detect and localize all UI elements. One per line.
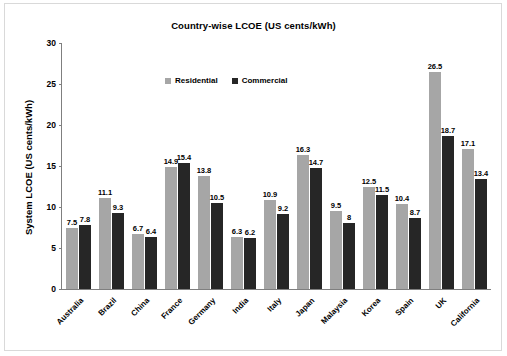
- bar[interactable]: [376, 195, 388, 289]
- y-axis-tick-label: 10: [47, 202, 56, 212]
- chart-figure: Country-wise LCOE (US cents/kWh) System …: [0, 0, 507, 356]
- bar-column: 8.7: [409, 43, 421, 289]
- x-axis-label-slot: Korea: [359, 291, 392, 351]
- bar-value-label: 15.4: [177, 153, 192, 162]
- bar[interactable]: [165, 167, 177, 289]
- x-axis-tick-label: Italy: [265, 296, 283, 314]
- x-axis-label-slot: California: [458, 291, 491, 351]
- legend-label: Commercial: [242, 76, 288, 85]
- x-axis-tick-label: Spain: [393, 296, 415, 318]
- x-axis-tick-label: France: [159, 296, 184, 321]
- y-axis-tick-label: 15: [47, 161, 56, 171]
- bar[interactable]: [198, 176, 210, 289]
- bar[interactable]: [132, 234, 144, 289]
- x-axis-tick-label: Japan: [293, 296, 316, 319]
- bar-value-label: 17.1: [461, 139, 476, 148]
- bar[interactable]: [429, 72, 441, 289]
- bar-value-label: 8.7: [410, 208, 420, 217]
- x-axis-labels: AustraliaBrazilChinaFranceGermanyIndiaIt…: [62, 291, 491, 351]
- bar-group: 10.48.7: [392, 43, 425, 289]
- bar-column: 13.4: [475, 43, 487, 289]
- bar[interactable]: [145, 237, 157, 289]
- legend-entry[interactable]: Residential: [165, 76, 218, 85]
- bar[interactable]: [396, 204, 408, 289]
- bar-value-label: 6.3: [232, 227, 242, 236]
- bar-column: 16.3: [297, 43, 309, 289]
- bar-value-label: 13.8: [197, 166, 212, 175]
- y-axis-tick-label: 20: [47, 120, 56, 130]
- bar-value-label: 11.1: [98, 188, 112, 197]
- legend-entry[interactable]: Commercial: [232, 76, 288, 85]
- bar-value-label: 9.3: [113, 203, 123, 212]
- bar-value-label: 16.3: [296, 145, 311, 154]
- bar-column: 6.7: [132, 43, 144, 289]
- bar[interactable]: [330, 211, 342, 289]
- bar[interactable]: [178, 163, 190, 289]
- bar[interactable]: [66, 228, 78, 290]
- bar-column: 17.1: [462, 43, 474, 289]
- x-axis-tick-label: India: [230, 296, 250, 316]
- bar-group: 7.57.8: [62, 43, 95, 289]
- x-axis-tick-label: China: [129, 296, 151, 318]
- bar-value-label: 6.4: [146, 227, 156, 236]
- y-axis-title: System LCOE (US cents/kWh): [23, 78, 34, 258]
- bar-column: 6.4: [145, 43, 157, 289]
- bar[interactable]: [409, 218, 421, 289]
- x-axis-label-slot: China: [128, 291, 161, 351]
- x-axis-tick-label: Korea: [359, 296, 381, 318]
- bar-value-label: 26.5: [428, 62, 443, 71]
- y-axis-tick-label: 5: [51, 243, 56, 253]
- bar-column: 8: [343, 43, 355, 289]
- bar-value-label: 7.5: [67, 218, 77, 227]
- x-axis-label-slot: Australia: [62, 291, 95, 351]
- bar[interactable]: [277, 214, 289, 289]
- bar[interactable]: [79, 225, 91, 289]
- y-axis-tick-label: 30: [47, 38, 56, 48]
- bar-group: 12.511.5: [359, 43, 392, 289]
- bar[interactable]: [112, 213, 124, 289]
- bar-value-label: 9.5: [331, 201, 341, 210]
- bar[interactable]: [99, 198, 111, 289]
- bar-value-label: 18.7: [441, 126, 456, 135]
- x-axis-label-slot: Italy: [260, 291, 293, 351]
- bar-value-label: 11.5: [375, 185, 389, 194]
- bar-value-label: 9.2: [278, 204, 288, 213]
- bar[interactable]: [442, 136, 454, 289]
- bar-column: 18.7: [442, 43, 454, 289]
- bar-column: 11.5: [376, 43, 388, 289]
- bar[interactable]: [244, 238, 256, 289]
- x-axis-line: [61, 289, 491, 290]
- bar[interactable]: [310, 168, 322, 289]
- bar[interactable]: [343, 223, 355, 289]
- bar-group: 26.518.7: [425, 43, 458, 289]
- bar-group: 17.113.4: [458, 43, 491, 289]
- x-axis-tick-label: Brazil: [96, 296, 118, 318]
- legend-swatch-icon: [165, 78, 171, 84]
- bar[interactable]: [211, 203, 223, 289]
- bar[interactable]: [363, 187, 375, 290]
- chart-legend: ResidentialCommercial: [165, 76, 287, 85]
- bar-group: 16.314.7: [293, 43, 326, 289]
- bar-column: 14.7: [310, 43, 322, 289]
- y-axis-tick-label: 25: [47, 79, 56, 89]
- bar[interactable]: [462, 149, 474, 289]
- bar-column: 11.1: [99, 43, 111, 289]
- x-axis-label-slot: Germany: [194, 291, 227, 351]
- legend-swatch-icon: [232, 78, 238, 84]
- bar[interactable]: [475, 179, 487, 289]
- bar-value-label: 10.4: [395, 194, 410, 203]
- bar-column: 7.8: [79, 43, 91, 289]
- bar[interactable]: [297, 155, 309, 289]
- y-axis-tick-mark: [59, 289, 62, 290]
- x-axis-tick-label: UK: [433, 296, 448, 311]
- x-axis-label-slot: Spain: [392, 291, 425, 351]
- bar[interactable]: [231, 237, 243, 289]
- bar-group: 9.58: [326, 43, 359, 289]
- bar[interactable]: [264, 200, 276, 289]
- bar-value-label: 6.2: [245, 228, 255, 237]
- legend-label: Residential: [175, 76, 218, 85]
- bar-column: 26.5: [429, 43, 441, 289]
- bar-value-label: 8: [347, 213, 351, 222]
- x-axis-label-slot: Malaysia: [326, 291, 359, 351]
- x-axis-label-slot: India: [227, 291, 260, 351]
